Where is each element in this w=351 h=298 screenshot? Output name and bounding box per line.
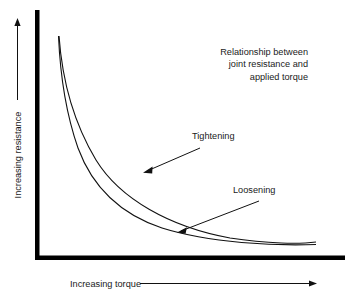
figure-caption: Relationship between joint resistance an… bbox=[186, 46, 308, 83]
arrow-right-icon-x-axis bbox=[140, 280, 317, 286]
arrow-down-left-icon-loosening bbox=[177, 201, 259, 234]
y-axis-line bbox=[35, 10, 40, 260]
caption-line-1: Relationship between bbox=[186, 46, 308, 58]
x-axis-line bbox=[35, 256, 345, 261]
caption-line-2: joint resistance and bbox=[186, 58, 308, 70]
annotation-label-tightening: Tightening bbox=[192, 131, 235, 141]
figure-container: Relationship between joint resistance an… bbox=[0, 0, 351, 298]
caption-line-3: applied torque bbox=[186, 71, 308, 83]
x-axis-label: Increasing torque bbox=[70, 279, 141, 289]
annotation-label-loosening: Loosening bbox=[233, 185, 275, 195]
figure-graphics bbox=[0, 0, 351, 298]
arrow-down-left-icon-tightening bbox=[143, 148, 200, 173]
y-axis-label: Increasing resistance bbox=[13, 90, 23, 220]
arrow-up-icon-y-axis bbox=[14, 18, 20, 100]
